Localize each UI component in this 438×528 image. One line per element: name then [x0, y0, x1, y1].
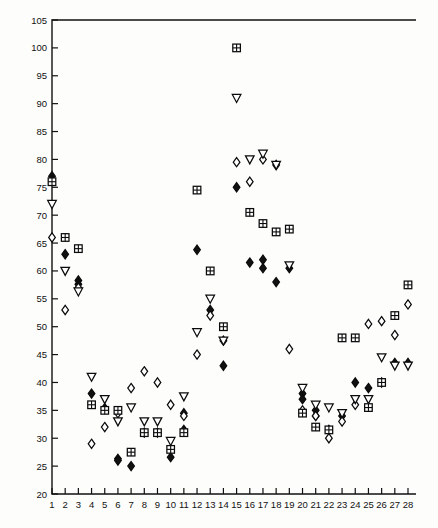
scatter-plot: 2025303540455055606570758085909510010512…: [0, 0, 438, 528]
x-tick-label: 26: [376, 499, 387, 510]
x-tick-label: 17: [258, 499, 269, 510]
data-point: [311, 401, 320, 409]
y-tick-label: 35: [36, 405, 47, 416]
data-point: [220, 323, 228, 331]
data-point: [312, 423, 320, 431]
x-tick-label: 27: [390, 499, 401, 510]
data-point: [378, 379, 386, 387]
data-point: [74, 288, 83, 296]
x-tick-label: 2: [63, 499, 68, 510]
x-tick-label: 28: [403, 499, 414, 510]
x-tick-label: 23: [337, 499, 348, 510]
data-point: [392, 330, 399, 339]
data-point: [391, 312, 399, 320]
data-point: [140, 429, 148, 437]
data-point: [140, 418, 149, 426]
x-tick-label: 10: [165, 499, 176, 510]
data-point: [167, 453, 174, 462]
data-point: [246, 258, 253, 267]
data-point: [127, 404, 136, 412]
data-point: [286, 344, 293, 353]
data-point: [377, 354, 386, 362]
x-tick-label: 14: [218, 499, 229, 510]
data-point: [154, 429, 162, 437]
x-tick-label: 25: [363, 499, 374, 510]
series-open-diamond: [49, 155, 412, 449]
plot-axes: [52, 20, 416, 494]
data-point: [167, 400, 174, 409]
y-tick-label: 55: [36, 293, 47, 304]
data-point: [61, 267, 70, 275]
x-tick-label: 22: [324, 499, 335, 510]
data-point: [299, 409, 307, 417]
data-point: [193, 186, 201, 194]
data-point: [101, 407, 109, 415]
data-point: [48, 178, 56, 186]
y-tick-label: 20: [36, 489, 47, 500]
data-point: [128, 383, 135, 392]
data-point: [405, 300, 412, 309]
y-tick-label: 85: [36, 126, 47, 137]
y-tick-label: 75: [36, 182, 47, 193]
y-tick-label: 70: [36, 210, 47, 221]
data-point: [180, 429, 188, 437]
data-point: [259, 150, 268, 158]
x-tick-label: 11: [179, 499, 189, 510]
y-tick-label: 95: [36, 70, 47, 81]
data-point: [154, 378, 161, 387]
y-tick-label: 105: [31, 15, 47, 26]
x-tick-label: 19: [284, 499, 295, 510]
y-tick-label: 50: [36, 321, 47, 332]
data-point: [193, 329, 202, 337]
data-point: [365, 404, 373, 412]
data-point: [194, 350, 201, 359]
y-tick-label: 90: [36, 98, 47, 109]
data-point: [75, 245, 83, 253]
data-point: [351, 396, 360, 404]
data-point: [49, 233, 56, 242]
data-point: [206, 267, 214, 275]
y-tick-label: 65: [36, 238, 47, 249]
data-point: [61, 234, 69, 242]
data-point: [351, 334, 359, 342]
data-point: [338, 334, 346, 342]
data-point: [128, 462, 135, 471]
data-point: [233, 183, 240, 192]
data-point: [325, 426, 333, 434]
x-tick-label: 18: [271, 499, 282, 510]
y-tick-label: 80: [36, 154, 47, 165]
data-point: [273, 277, 280, 286]
data-point: [326, 434, 333, 443]
data-point: [114, 418, 123, 426]
data-point: [100, 396, 109, 404]
data-point: [167, 446, 175, 454]
data-point: [206, 295, 215, 303]
data-point: [259, 220, 267, 228]
data-point: [233, 158, 240, 167]
data-point: [127, 448, 135, 456]
x-tick-label: 16: [244, 499, 255, 510]
data-point: [62, 305, 69, 314]
data-point: [286, 225, 294, 233]
data-point: [101, 422, 108, 431]
x-tick-label: 24: [350, 499, 361, 510]
x-tick-label: 1: [49, 499, 54, 510]
data-point: [404, 362, 413, 370]
y-tick-label: 40: [36, 377, 47, 388]
data-point: [364, 396, 373, 404]
data-point: [166, 437, 175, 445]
x-tick-label: 5: [102, 499, 107, 510]
data-point: [141, 367, 148, 376]
x-tick-label: 15: [231, 499, 242, 510]
x-tick-label: 20: [297, 499, 308, 510]
data-point: [114, 407, 122, 415]
data-point: [378, 317, 385, 326]
series-triangle-down: [48, 94, 413, 445]
y-tick-label: 30: [36, 433, 47, 444]
y-tick-label: 45: [36, 349, 47, 360]
data-point: [246, 209, 254, 217]
data-point: [88, 439, 95, 448]
data-point: [194, 245, 201, 254]
x-tick-label: 9: [155, 499, 160, 510]
data-point: [153, 418, 162, 426]
